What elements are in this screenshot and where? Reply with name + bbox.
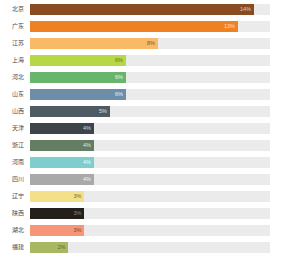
chart-row: 浙江4%	[0, 140, 282, 151]
bar: 6%	[30, 72, 126, 83]
bar-track: 4%	[30, 157, 270, 168]
bar: 4%	[30, 157, 94, 168]
bar-value-label: 3%	[73, 208, 81, 219]
category-label: 河北	[0, 74, 30, 81]
bar: 13%	[30, 21, 238, 32]
bar-track: 4%	[30, 174, 270, 185]
category-label: 天津	[0, 125, 30, 132]
bar-track: 3%	[30, 208, 270, 219]
category-label: 河南	[0, 159, 30, 166]
category-label: 山西	[0, 108, 30, 115]
bar: 6%	[30, 55, 126, 66]
bar: 3%	[30, 208, 84, 219]
bar-track: 6%	[30, 89, 270, 100]
category-label: 四川	[0, 176, 30, 183]
bar-track: 8%	[30, 38, 270, 49]
bar-track: 3%	[30, 191, 270, 202]
bar-value-label: 4%	[83, 123, 91, 134]
category-label: 福建	[0, 244, 30, 251]
bar-track: 5%	[30, 106, 270, 117]
bar-value-label: 3%	[73, 225, 81, 236]
chart-rows: 北京14%广东13%江苏8%上海6%河北6%山东6%山西5%天津4%浙江4%河南…	[0, 4, 282, 253]
chart-row: 山东6%	[0, 89, 282, 100]
horizontal-bar-chart: 北京14%广东13%江苏8%上海6%河北6%山东6%山西5%天津4%浙江4%河南…	[0, 0, 282, 273]
bar-value-label: 14%	[240, 4, 251, 15]
bar-track: 14%	[30, 4, 270, 15]
chart-row: 河北6%	[0, 72, 282, 83]
category-label: 浙江	[0, 142, 30, 149]
bar: 4%	[30, 123, 94, 134]
chart-row: 天津4%	[0, 123, 282, 134]
bar: 5%	[30, 106, 110, 117]
chart-row: 四川4%	[0, 174, 282, 185]
bar-value-label: 4%	[83, 174, 91, 185]
bar-track: 13%	[30, 21, 270, 32]
chart-row: 辽宁3%	[0, 191, 282, 202]
category-label: 湖北	[0, 227, 30, 234]
bar-track: 3%	[30, 225, 270, 236]
bar: 8%	[30, 38, 158, 49]
chart-row: 陕西3%	[0, 208, 282, 219]
category-label: 江苏	[0, 40, 30, 47]
bar-value-label: 13%	[224, 21, 235, 32]
bar-value-label: 8%	[147, 38, 155, 49]
bar: 4%	[30, 140, 94, 151]
category-label: 北京	[0, 6, 30, 13]
chart-row: 湖北3%	[0, 225, 282, 236]
bar-track: 4%	[30, 140, 270, 151]
bar-track: 4%	[30, 123, 270, 134]
chart-row: 福建2%	[0, 242, 282, 253]
bar: 6%	[30, 89, 126, 100]
category-label: 辽宁	[0, 193, 30, 200]
bar: 3%	[30, 225, 84, 236]
category-label: 陕西	[0, 210, 30, 217]
bar: 4%	[30, 174, 94, 185]
chart-row: 山西5%	[0, 106, 282, 117]
bar: 2%	[30, 242, 68, 253]
bar: 14%	[30, 4, 254, 15]
bar-track: 2%	[30, 242, 270, 253]
bar: 3%	[30, 191, 84, 202]
chart-row: 北京14%	[0, 4, 282, 15]
bar-value-label: 4%	[83, 140, 91, 151]
bar-value-label: 6%	[115, 55, 123, 66]
bar-value-label: 3%	[73, 191, 81, 202]
bar-value-label: 4%	[83, 157, 91, 168]
chart-row: 江苏8%	[0, 38, 282, 49]
chart-row: 上海6%	[0, 55, 282, 66]
chart-row: 河南4%	[0, 157, 282, 168]
chart-row: 广东13%	[0, 21, 282, 32]
bar-value-label: 2%	[57, 242, 65, 253]
bar-value-label: 5%	[99, 106, 107, 117]
category-label: 山东	[0, 91, 30, 98]
bar-track: 6%	[30, 72, 270, 83]
bar-track: 6%	[30, 55, 270, 66]
bar-value-label: 6%	[115, 89, 123, 100]
category-label: 广东	[0, 23, 30, 30]
category-label: 上海	[0, 57, 30, 64]
bar-value-label: 6%	[115, 72, 123, 83]
